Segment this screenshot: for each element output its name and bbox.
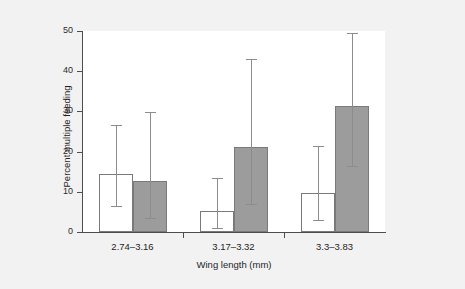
x-axis-title: Wing length (mm) — [82, 259, 386, 270]
y-tick-mark — [77, 192, 82, 193]
y-tick-mark — [77, 152, 82, 153]
error-bar-stem-open-2 — [217, 178, 218, 227]
y-tick-mark — [77, 232, 82, 233]
x-axis-line — [82, 232, 386, 233]
x-tick-label: 3.3–3.83 — [316, 241, 353, 252]
error-bar-cap-upper-open-1 — [111, 125, 122, 126]
y-tick-mark — [77, 31, 82, 32]
error-bar-cap-upper-filled-2 — [246, 59, 257, 60]
x-tick-label: 2.74–3.16 — [111, 241, 153, 252]
error-bar-cap-upper-filled-3 — [347, 33, 358, 34]
figure-bar-chart: 01020304050 2.74–3.163.17–3.323.3–3.83 P… — [0, 0, 465, 289]
y-axis-line — [82, 31, 83, 233]
error-bar-cap-lower-filled-3 — [347, 166, 358, 167]
error-bar-stem-open-1 — [116, 125, 117, 206]
y-tick-mark — [77, 71, 82, 72]
error-bar-stem-filled-2 — [251, 59, 252, 204]
error-bar-stem-filled-3 — [352, 33, 353, 166]
x-tick-label: 3.17–3.32 — [212, 241, 254, 252]
error-bar-cap-lower-open-2 — [212, 228, 223, 229]
y-tick-label: 50 — [63, 26, 73, 35]
error-bar-cap-upper-open-3 — [313, 146, 324, 147]
error-bar-cap-lower-open-3 — [313, 220, 324, 221]
y-tick-mark — [77, 111, 82, 112]
error-bar-stem-filled-1 — [150, 112, 151, 218]
y-tick-label: 0 — [68, 227, 73, 236]
x-tick-mark — [284, 233, 285, 238]
x-tick-mark — [183, 233, 184, 238]
error-bar-cap-lower-open-1 — [111, 206, 122, 207]
error-bar-stem-open-3 — [318, 146, 319, 220]
error-bar-cap-upper-open-2 — [212, 178, 223, 179]
error-bar-cap-upper-filled-1 — [145, 112, 156, 113]
error-bar-cap-lower-filled-1 — [145, 218, 156, 219]
error-bar-cap-lower-filled-2 — [246, 204, 257, 205]
y-axis-title: Percent multiple feeding — [61, 57, 72, 217]
